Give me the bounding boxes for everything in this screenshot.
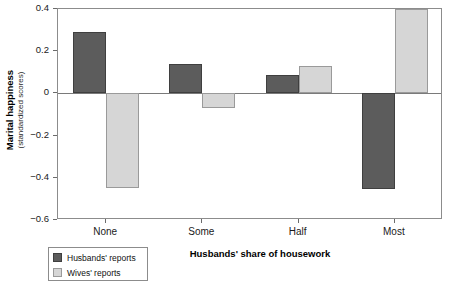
- x-axis-tick-mark: [394, 219, 395, 223]
- legend-item-label: Wives' reports: [67, 268, 121, 278]
- y-axis-tick-mark: [53, 219, 57, 220]
- y-axis-tick-label: −0.6: [0, 213, 49, 224]
- legend-swatch-icon: [53, 253, 62, 262]
- bar: [169, 64, 202, 94]
- y-axis-tick-label: −0.4: [0, 171, 49, 182]
- bar: [73, 32, 106, 93]
- bar: [362, 93, 395, 189]
- legend-item: Wives' reports: [53, 266, 143, 279]
- x-axis-tick-mark: [201, 219, 202, 223]
- x-axis-tick-mark: [298, 219, 299, 223]
- bar: [266, 75, 299, 93]
- x-axis-tick-label: Half: [289, 226, 307, 237]
- y-axis-tick-label: 0.4: [0, 2, 49, 13]
- x-axis-tick-label: None: [93, 226, 117, 237]
- y-axis-title: Marital happiness (standardized scores): [2, 50, 28, 170]
- plot-area: [58, 9, 441, 218]
- plot-frame: [57, 8, 442, 219]
- chart-legend: Husbands' reportsWives' reports: [48, 247, 148, 281]
- bar-chart: Marital happiness (standardized scores) …: [0, 0, 451, 285]
- legend-item-label: Husbands' reports: [67, 253, 136, 263]
- y-axis-tick-label: 0.2: [0, 44, 49, 55]
- y-axis-tick-label: −0.2: [0, 129, 49, 140]
- legend-swatch-icon: [53, 268, 62, 277]
- legend-item: Husbands' reports: [53, 251, 143, 264]
- x-axis-title: Husbands' share of housework: [160, 248, 360, 259]
- bar: [202, 93, 235, 108]
- bar: [395, 9, 428, 93]
- bar: [106, 93, 139, 188]
- x-axis-tick-label: Some: [188, 226, 214, 237]
- x-axis-tick-label: Most: [383, 226, 405, 237]
- x-axis-tick-mark: [105, 219, 106, 223]
- bar: [299, 66, 332, 93]
- y-axis-tick-label: 0: [0, 86, 49, 97]
